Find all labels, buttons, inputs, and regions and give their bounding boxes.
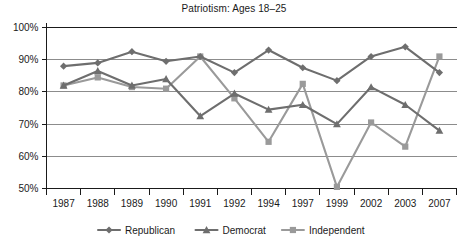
triangle-marker xyxy=(367,83,375,90)
legend-label: Democrat xyxy=(223,225,267,236)
legend-item-independent[interactable]: Independent xyxy=(282,225,365,236)
data-series-group xyxy=(60,43,444,190)
square-marker xyxy=(290,227,296,233)
x-axis-tick-label: 2003 xyxy=(394,198,417,209)
x-axis-tick-label: 1991 xyxy=(189,198,212,209)
x-axis-tick-label: 1990 xyxy=(155,198,178,209)
x-axis-tick-label: 1992 xyxy=(223,198,246,209)
triangle-marker xyxy=(231,90,239,97)
diamond-marker xyxy=(105,226,112,233)
triangle-marker xyxy=(94,67,102,74)
x-axis-tick-label: 1999 xyxy=(326,198,349,209)
square-marker xyxy=(265,139,271,145)
diamond-marker xyxy=(162,58,169,65)
x-axis-tick-label: 1988 xyxy=(87,198,110,209)
y-axis-tick-label: 60% xyxy=(18,151,38,162)
series-line xyxy=(64,47,440,81)
legend-label: Independent xyxy=(309,225,365,236)
square-marker xyxy=(368,119,374,125)
y-axis-tick-label: 50% xyxy=(18,183,38,194)
legend-label: Republican xyxy=(125,225,175,236)
series-independent xyxy=(60,53,442,190)
line-chart-plot: 50%60%70%80%90%100% 19871988198919901991… xyxy=(0,0,468,247)
y-axis-tick-label: 90% xyxy=(18,54,38,65)
gridlines xyxy=(47,28,457,189)
series-line xyxy=(64,56,440,186)
x-axis-tick-label: 1997 xyxy=(292,198,315,209)
x-axis-tick-label: 2002 xyxy=(360,198,383,209)
x-axis: 1987198819891990199119921994199719992002… xyxy=(47,189,457,209)
square-marker xyxy=(300,81,306,87)
x-axis-tick-label: 1994 xyxy=(257,198,280,209)
x-axis-tick-label: 1987 xyxy=(52,198,75,209)
y-axis-tick-label: 80% xyxy=(18,86,38,97)
square-marker xyxy=(436,53,442,59)
square-marker xyxy=(334,184,340,190)
series-republican xyxy=(60,43,443,84)
x-axis-tick-label: 2007 xyxy=(428,198,451,209)
chart-legend: RepublicanDemocratIndependent xyxy=(98,225,365,236)
square-marker xyxy=(163,86,169,92)
square-marker xyxy=(95,74,101,80)
legend-item-democrat[interactable]: Democrat xyxy=(196,225,267,236)
x-axis-tick-label: 1989 xyxy=(121,198,144,209)
square-marker xyxy=(402,144,408,150)
y-axis: 50%60%70%80%90%100% xyxy=(13,22,47,195)
y-axis-tick-label: 70% xyxy=(18,119,38,130)
y-axis-tick-label: 100% xyxy=(13,22,39,33)
legend-item-republican[interactable]: Republican xyxy=(98,225,175,236)
diamond-marker xyxy=(299,64,306,71)
diamond-marker xyxy=(128,48,135,55)
chart-container: Patriotism: Ages 18–25 50%60%70%80%90%10… xyxy=(0,0,468,247)
diamond-marker xyxy=(94,59,101,66)
diamond-marker xyxy=(60,63,67,70)
